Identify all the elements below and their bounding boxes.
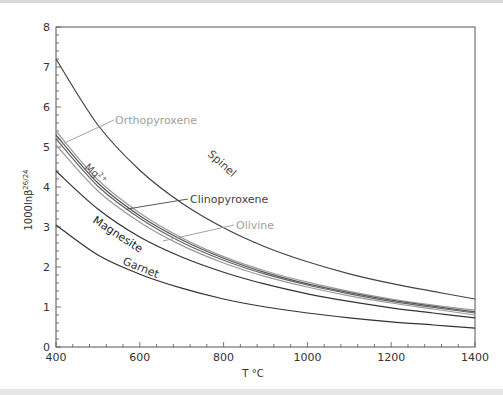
y-tick-label: 6: [43, 101, 50, 114]
x-tick-label: 1200: [377, 351, 405, 364]
y-tick-label: 7: [43, 61, 50, 74]
plot-frame: [56, 27, 475, 347]
axes: [56, 27, 475, 347]
label-orthopyroxene: Orthopyroxene: [115, 114, 197, 127]
x-tick-label: 1000: [293, 351, 321, 364]
label-mg2: Mg2+: [83, 161, 110, 187]
y-axis-title: 1000lnβ26/24: [22, 169, 34, 231]
y-tick-label: 8: [43, 21, 50, 34]
label-olivine: Olivine: [236, 219, 274, 232]
label-garnet: Garnet: [121, 255, 161, 281]
x-tick-label: 800: [213, 351, 234, 364]
y-tick-label: 3: [43, 221, 50, 234]
label-clinopyroxene: Clinopyroxene: [190, 193, 269, 206]
label-spinel: Spinel: [205, 148, 239, 180]
y-tick-label: 1: [43, 301, 50, 314]
x-tick-label: 400: [46, 351, 67, 364]
x-tick-label: 600: [129, 351, 150, 364]
y-tick-label: 5: [43, 141, 50, 154]
y-tick-label: 4: [43, 181, 50, 194]
curve-spinel: [56, 59, 475, 299]
leader-orthopyroxene: [60, 120, 114, 145]
chart-canvas: 012345678400600800100012001400 Spinel Mg…: [0, 0, 503, 395]
x-tick-label: 1400: [461, 351, 489, 364]
bottom-border: [0, 389, 503, 395]
leader-clinopyroxene: [127, 199, 188, 209]
x-axis-title: T °C: [241, 368, 263, 379]
y-tick-label: 2: [43, 261, 50, 274]
